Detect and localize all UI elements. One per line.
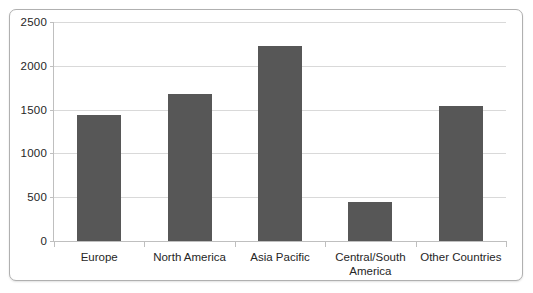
gridline-0	[54, 241, 506, 242]
x-tick-mark-4	[416, 241, 417, 247]
x-tick-mark-2	[235, 241, 236, 247]
y-tick-label-500: 500	[27, 191, 47, 203]
gridline-2500	[54, 22, 506, 23]
plot-area: 05001000150020002500 EuropeNorth America…	[54, 22, 506, 241]
y-tick-mark-1500	[50, 110, 54, 111]
x-tick-mark-end	[506, 241, 507, 247]
chart-frame: 05001000150020002500 EuropeNorth America…	[9, 9, 523, 281]
bar-other-countries	[439, 106, 483, 241]
bar-asia-pacific	[258, 46, 302, 241]
x-tick-mark-start	[54, 241, 55, 247]
y-tick-label-2000: 2000	[21, 60, 47, 72]
y-tick-label-0: 0	[40, 235, 47, 247]
y-axis-line	[53, 22, 54, 241]
x-tick-mark-1	[144, 241, 145, 247]
y-tick-mark-2000	[50, 66, 54, 67]
y-tick-label-1000: 1000	[21, 147, 47, 159]
x-tick-mark-3	[325, 241, 326, 247]
y-tick-mark-1000	[50, 153, 54, 154]
bar-north-america	[168, 94, 212, 241]
x-axis-label-4: Other Countries	[406, 250, 516, 264]
bar-central-south-america	[348, 202, 392, 241]
y-tick-label-2500: 2500	[21, 16, 47, 28]
y-tick-mark-500	[50, 197, 54, 198]
bar-europe	[77, 115, 121, 241]
y-tick-mark-2500	[50, 22, 54, 23]
y-tick-label-1500: 1500	[21, 104, 47, 116]
